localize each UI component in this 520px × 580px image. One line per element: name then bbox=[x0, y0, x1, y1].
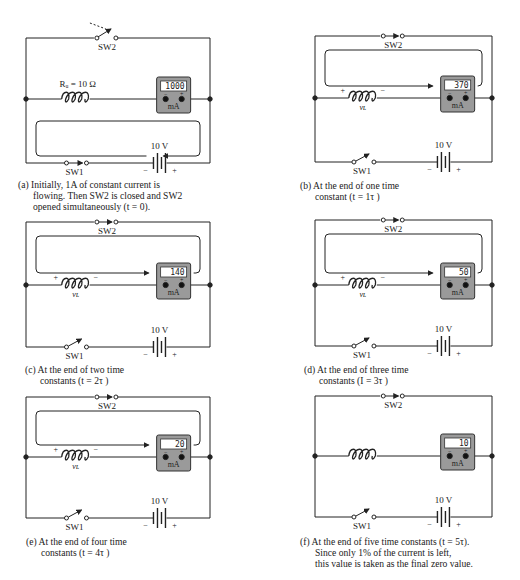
caption-line: flowing. Then SW2 is closed and SW2 bbox=[18, 190, 182, 201]
switch-sw2[interactable] bbox=[90, 23, 118, 40]
sw1-label: SW1 bbox=[65, 351, 83, 361]
switch-sw2[interactable] bbox=[95, 220, 118, 224]
sw1-label: SW1 bbox=[353, 350, 371, 360]
panel-a: SW21000−+mARᵤ = 10 ΩSW110 V−+ bbox=[24, 23, 212, 177]
meter-reading: 1000 bbox=[165, 82, 184, 91]
caption-line: this value is taken as the final zero va… bbox=[300, 558, 473, 569]
switch-sw1[interactable] bbox=[64, 161, 88, 165]
source-voltage-label: 10 V bbox=[435, 324, 453, 334]
caption-line: constants (t = 4τ ) bbox=[26, 547, 127, 558]
battery-plus: + bbox=[172, 166, 177, 175]
battery-plus: + bbox=[172, 521, 177, 530]
battery: 10 V−+ bbox=[143, 325, 177, 359]
milliammeter: 10−+mA bbox=[441, 434, 475, 470]
battery-minus: − bbox=[143, 350, 148, 359]
caption-line: Since only 1% of the current is left, bbox=[300, 547, 473, 558]
caption-line: (d) At the end of three time bbox=[304, 364, 408, 375]
circuit-figure: SW21000−+mARᵤ = 10 ΩSW110 V−+SW2370−+mA+… bbox=[0, 0, 520, 580]
inductor-voltage-label: vʟ bbox=[359, 103, 366, 112]
caption-e: (e) At the end of four timeconstants (t … bbox=[26, 536, 127, 558]
meter-reading: 140 bbox=[170, 268, 185, 277]
battery-minus: − bbox=[143, 521, 148, 530]
switch-sw1[interactable] bbox=[352, 509, 376, 519]
switch-sw1[interactable] bbox=[352, 338, 376, 348]
sw2-label: SW2 bbox=[98, 42, 116, 52]
current-flow-arrow bbox=[36, 121, 200, 156]
inductor bbox=[62, 92, 89, 102]
battery-plus: + bbox=[172, 350, 177, 359]
battery-plus: + bbox=[456, 520, 461, 529]
meter-unit: mA bbox=[452, 288, 464, 297]
caption-line: opened simultaneously (t = 0). bbox=[18, 201, 182, 212]
meter-reading: 370 bbox=[454, 81, 469, 90]
battery: 10 V−+ bbox=[143, 141, 177, 175]
meter-unit: mA bbox=[168, 460, 180, 469]
source-voltage-label: 10 V bbox=[435, 495, 453, 505]
caption-c: (c) At the end of two timeconstants (t =… bbox=[25, 364, 124, 386]
sw2-label: SW2 bbox=[384, 40, 402, 50]
switch-sw2[interactable] bbox=[381, 34, 404, 38]
battery-plus: + bbox=[456, 165, 461, 174]
sw2-label: SW2 bbox=[384, 400, 402, 410]
meter-reading: 20 bbox=[175, 440, 185, 449]
caption-b: (b) At the end of one timeconstant (t = … bbox=[300, 180, 399, 202]
switch-sw1[interactable] bbox=[352, 154, 376, 164]
battery-minus: − bbox=[427, 520, 432, 529]
panel-b: SW2370−+mA+−vʟSW110 V−+ bbox=[313, 34, 494, 176]
caption-line: constants (I = 3τ ) bbox=[304, 375, 408, 386]
battery-minus: − bbox=[427, 349, 432, 358]
meter-unit: mA bbox=[452, 459, 464, 468]
inductor-minus: − bbox=[381, 86, 386, 95]
caption-f: (f) At the end of five time constants (t… bbox=[300, 536, 473, 569]
battery: 10 V−+ bbox=[427, 495, 461, 529]
milliammeter: 50−+mA bbox=[441, 263, 475, 299]
inductor bbox=[349, 278, 376, 288]
battery-minus: − bbox=[143, 166, 148, 175]
switch-sw1[interactable] bbox=[64, 510, 88, 520]
source-voltage-label: 10 V bbox=[151, 496, 169, 506]
milliammeter: 1000−+mA bbox=[157, 77, 191, 113]
battery: 10 V−+ bbox=[427, 140, 461, 174]
meter-reading: 50 bbox=[459, 268, 469, 277]
inductor bbox=[349, 91, 376, 101]
inductor-plus: + bbox=[341, 273, 346, 282]
panel-c: SW2140−+mA+−vʟSW110 V−+ bbox=[24, 220, 212, 361]
switch-sw2[interactable] bbox=[381, 218, 404, 222]
switch-sw1[interactable] bbox=[64, 339, 88, 349]
inductor-voltage-label: vʟ bbox=[359, 290, 366, 299]
battery-plus: + bbox=[456, 349, 461, 358]
inductor-voltage-label: vʟ bbox=[72, 462, 79, 471]
sw1-label: SW1 bbox=[353, 521, 371, 531]
battery: 10 V−+ bbox=[143, 496, 177, 530]
caption-d: (d) At the end of three timeconstants (I… bbox=[304, 364, 408, 386]
inductor bbox=[349, 449, 376, 459]
panel-d: SW250−+mA+−vʟSW110 V−+ bbox=[313, 218, 494, 360]
sw2-label: SW2 bbox=[98, 401, 116, 411]
caption-line: constants (t = 2τ ) bbox=[25, 375, 124, 386]
inductor bbox=[62, 278, 89, 288]
inductor-plus: + bbox=[341, 86, 346, 95]
sw1-label: SW1 bbox=[353, 166, 371, 176]
switch-sw2[interactable] bbox=[381, 394, 404, 398]
milliammeter: 20−+mA bbox=[157, 435, 191, 471]
meter-unit: mA bbox=[168, 102, 180, 111]
battery-minus: − bbox=[427, 165, 432, 174]
inductor-plus: + bbox=[53, 445, 58, 454]
battery: 10 V−+ bbox=[427, 324, 461, 358]
sw1-label: SW1 bbox=[65, 167, 83, 177]
sw1-label: SW1 bbox=[65, 522, 83, 532]
caption-line: (a) Initially, 1A of constant current is bbox=[18, 179, 182, 190]
panel-e: SW220−+mA+−vʟSW110 V−+ bbox=[24, 395, 212, 532]
panel-f: SW210−+mASW110 V−+ bbox=[313, 394, 494, 531]
caption-line: (f) At the end of five time constants (t… bbox=[300, 536, 473, 547]
caption-line: constant (t = 1τ ) bbox=[300, 191, 399, 202]
milliammeter: 370−+mA bbox=[441, 76, 475, 112]
caption-a: (a) Initially, 1A of constant current is… bbox=[18, 179, 182, 212]
inductor-voltage-label: vʟ bbox=[72, 290, 79, 299]
inductor bbox=[62, 450, 89, 460]
meter-unit: mA bbox=[168, 288, 180, 297]
source-voltage-label: 10 V bbox=[151, 325, 169, 335]
inductor-minus: − bbox=[93, 445, 98, 454]
switch-sw2[interactable] bbox=[95, 395, 118, 399]
caption-line: (c) At the end of two time bbox=[25, 364, 124, 375]
